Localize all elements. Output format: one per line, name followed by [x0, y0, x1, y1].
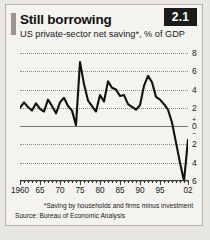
- accent-bar: [11, 13, 16, 35]
- chart-subtitle: US private-sector net saving*, % of GDP: [20, 29, 185, 39]
- x-axis-tick: [96, 180, 97, 183]
- y-axis-plus-sign: +: [192, 116, 196, 123]
- y-axis-tick-label: 6: [192, 176, 206, 186]
- x-axis-tick: [164, 180, 165, 183]
- chart-card: 2.1 Still borrowing US private-sector ne…: [5, 4, 203, 226]
- x-axis-tick: [48, 180, 49, 183]
- x-axis-tick: [104, 180, 105, 183]
- x-axis-tick: [124, 180, 125, 183]
- plot-area: [20, 53, 188, 181]
- chart-number-label: 2.1: [172, 10, 190, 24]
- x-axis-tick: [120, 180, 121, 185]
- x-axis-tick: [84, 180, 85, 183]
- x-axis-tick: [148, 180, 149, 183]
- x-axis-tick-label: 75: [75, 186, 84, 195]
- x-axis-tick: [140, 180, 141, 185]
- y-axis-tick-label: 8: [192, 48, 206, 58]
- x-axis-tick: [44, 180, 45, 183]
- x-axis-tick: [20, 180, 21, 185]
- x-axis-tick: [92, 180, 93, 183]
- x-axis-tick: [128, 180, 129, 183]
- x-axis-tick: [64, 180, 65, 183]
- x-axis-tick: [100, 180, 101, 185]
- y-axis-tick-label: 6: [192, 66, 206, 76]
- x-axis-tick: [132, 180, 133, 183]
- x-axis-tick: [32, 180, 33, 183]
- x-axis-tick: [112, 180, 113, 183]
- x-axis-tick: [184, 180, 185, 183]
- source-note: Source: Bureau of Economic Analysis: [15, 212, 125, 219]
- x-axis-tick-label: 95: [155, 186, 164, 195]
- x-axis-tick: [116, 180, 117, 183]
- x-axis-tick-label: 1960: [11, 186, 29, 195]
- y-axis-tick-label: 2: [192, 139, 206, 149]
- x-axis-tick: [180, 180, 181, 183]
- x-axis-tick: [160, 180, 161, 185]
- x-axis-tick: [88, 180, 89, 183]
- x-axis-tick: [68, 180, 69, 183]
- y-axis-minus-sign: −: [192, 130, 196, 137]
- x-axis-tick: [80, 180, 81, 185]
- x-axis-tick: [188, 180, 189, 185]
- footnote: *Saving by households and firms minus in…: [44, 202, 193, 209]
- x-axis-tick: [152, 180, 153, 183]
- x-axis-tick: [60, 180, 61, 185]
- x-axis-tick: [176, 180, 177, 183]
- x-axis-tick: [40, 180, 41, 185]
- x-axis-tick: [144, 180, 145, 183]
- y-axis-tick-label: 4: [192, 158, 206, 168]
- x-axis-tick: [56, 180, 57, 183]
- x-axis-tick-label: 85: [115, 186, 124, 195]
- x-axis-tick-label: 90: [135, 186, 144, 195]
- x-axis-tick-label: 80: [95, 186, 104, 195]
- x-axis-tick: [52, 180, 53, 183]
- y-axis-tick-label: 2: [192, 103, 206, 113]
- x-axis-tick: [172, 180, 173, 183]
- x-axis-tick-label: 65: [35, 186, 44, 195]
- x-axis-tick: [76, 180, 77, 183]
- x-axis-tick: [28, 180, 29, 183]
- data-series-line: [20, 53, 188, 181]
- y-axis-tick-label: 4: [192, 85, 206, 95]
- chart-number-badge: 2.1: [164, 8, 197, 26]
- x-axis-tick: [156, 180, 157, 183]
- x-axis-tick: [136, 180, 137, 183]
- x-axis-tick: [36, 180, 37, 183]
- x-axis-tick: [168, 180, 169, 183]
- x-axis-tick-label: 70: [55, 186, 64, 195]
- x-axis-tick-label: 02: [183, 186, 192, 195]
- page-title: Still borrowing: [20, 12, 112, 27]
- x-axis-tick: [24, 180, 25, 183]
- x-axis-tick: [108, 180, 109, 183]
- x-axis-tick: [72, 180, 73, 183]
